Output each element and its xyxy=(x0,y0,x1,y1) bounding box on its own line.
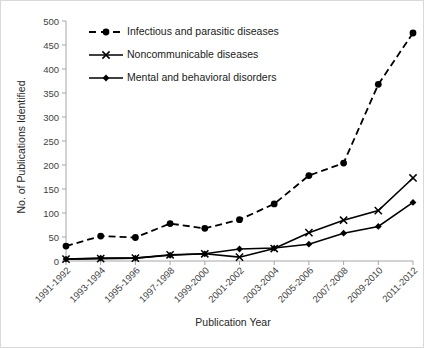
data-point-marker xyxy=(306,172,313,179)
y-tick-label: 200 xyxy=(43,160,59,171)
y-axis-title: No. of Publications Identified xyxy=(15,80,27,213)
line-chart: 050100150200250300350400450500 1991-1992… xyxy=(1,1,424,348)
legend-label: Infectious and parasitic diseases xyxy=(127,25,279,37)
data-series xyxy=(62,30,416,263)
series-infectious-and-parasitic-diseases xyxy=(63,30,417,250)
x-axis-title: Publication Year xyxy=(195,316,271,328)
legend-item[interactable]: Noncommunicable diseases xyxy=(89,48,258,60)
legend-label: Noncommunicable diseases xyxy=(127,48,258,60)
y-tick-label: 350 xyxy=(43,88,59,99)
data-point-marker xyxy=(167,220,174,227)
data-point-marker xyxy=(236,216,243,223)
data-point-marker xyxy=(236,246,243,253)
data-point-marker xyxy=(340,230,347,237)
x-tick-label: 2003-2004 xyxy=(241,265,281,305)
data-point-marker xyxy=(132,234,139,241)
x-tick-label: 1993-1994 xyxy=(67,265,107,305)
y-tick-label: 400 xyxy=(43,64,59,75)
y-tick-label: 250 xyxy=(43,136,59,147)
y-tick-label: 50 xyxy=(48,232,59,243)
legend-item[interactable]: Mental and behavioral disorders xyxy=(89,71,276,83)
x-tick-label: 2009-2010 xyxy=(345,265,385,305)
data-point-marker xyxy=(375,81,382,88)
chart-figure: 050100150200250300350400450500 1991-1992… xyxy=(0,0,424,348)
y-tick-label: 450 xyxy=(43,40,59,51)
data-point-marker xyxy=(271,200,278,207)
data-point-marker xyxy=(306,241,313,248)
data-point-marker xyxy=(63,243,70,250)
y-axis-tick-labels: 050100150200250300350400450500 xyxy=(43,16,59,267)
x-tick-label: 1991-1992 xyxy=(33,265,73,305)
data-point-marker xyxy=(340,160,347,167)
y-tick-label: 500 xyxy=(43,16,59,27)
legend-label: Mental and behavioral disorders xyxy=(127,71,276,83)
chart-legend: Infectious and parasitic diseasesNoncomm… xyxy=(89,25,279,83)
x-tick-label: 1999-2000 xyxy=(171,265,211,305)
x-tick-label: 2007-2008 xyxy=(310,265,350,305)
y-tick-label: 100 xyxy=(43,208,59,219)
y-tick-label: 0 xyxy=(54,256,59,267)
x-tick-label: 2005-2006 xyxy=(275,265,315,305)
data-point-marker xyxy=(103,29,110,36)
data-point-marker xyxy=(201,225,208,232)
y-tick-label: 150 xyxy=(43,184,59,195)
data-point-marker xyxy=(305,229,312,236)
data-point-marker xyxy=(410,30,417,37)
series-mental-and-behavioral-disorders xyxy=(63,199,417,262)
y-tick-label: 300 xyxy=(43,112,59,123)
x-tick-label: 1997-1998 xyxy=(137,265,177,305)
x-tick-label: 1995-1996 xyxy=(102,265,142,305)
legend-item[interactable]: Infectious and parasitic diseases xyxy=(89,25,279,37)
data-point-marker xyxy=(103,75,110,82)
x-tick-label: 2011-2012 xyxy=(380,265,419,304)
x-axis-tick-labels: 1991-19921993-19941995-19961997-19981999… xyxy=(33,265,420,305)
series-line xyxy=(66,33,413,246)
data-point-marker xyxy=(97,233,104,240)
x-tick-label: 2001-2002 xyxy=(206,265,246,305)
data-point-marker xyxy=(409,174,416,181)
